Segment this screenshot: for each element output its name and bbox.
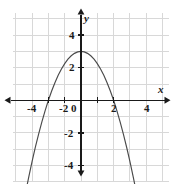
x-axis-label: x	[158, 84, 164, 95]
graph-figure: -4 -2 0 2 4 4 2 -2 -4 y x	[0, 0, 173, 184]
ytick-label-pos2: 2	[69, 62, 75, 73]
axis-arrowheads	[5, 9, 171, 177]
ytick-label-neg4: -4	[64, 160, 73, 171]
coordinate-plane-svg	[0, 0, 173, 184]
axis-lines	[11, 15, 165, 171]
grid-lines	[13, 13, 169, 181]
ytick-label-pos4: 4	[69, 30, 75, 41]
ytick-label-neg2: -2	[64, 128, 73, 139]
origin-label: 0	[71, 103, 77, 114]
xtick-label-pos4: 4	[144, 103, 150, 114]
xtick-label-neg2: -2	[59, 103, 68, 114]
xtick-label-neg4: -4	[27, 103, 36, 114]
xtick-label-pos2: 2	[111, 103, 117, 114]
y-axis-label: y	[84, 13, 89, 24]
